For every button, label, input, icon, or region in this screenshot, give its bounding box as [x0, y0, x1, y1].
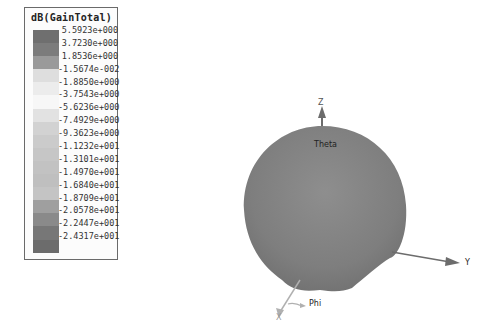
x-axis-label: X: [276, 313, 281, 322]
y-axis: [392, 252, 460, 266]
phi-arrow: [288, 303, 306, 308]
gain-surface: [244, 126, 406, 291]
y-axis-label: Y: [465, 258, 470, 267]
radiation-pattern-plot: [0, 0, 496, 325]
phi-label: Phi: [309, 299, 321, 308]
z-axis-label: Z: [318, 98, 323, 107]
theta-label: Theta: [314, 140, 337, 149]
